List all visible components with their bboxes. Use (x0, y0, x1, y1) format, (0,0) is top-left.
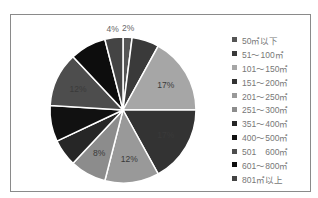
legend-label: 501 600㎡ (242, 145, 288, 157)
legend-swatch (232, 93, 237, 98)
chart-legend: 50㎡以下 51～100㎡ 101～150㎡ 151～200㎡ 201～250㎡… (232, 33, 312, 186)
legend-label: 151～200㎡ (242, 76, 288, 88)
data-label: 8% (93, 148, 106, 158)
legend-label: 50㎡以下 (242, 34, 278, 46)
legend-label: 601～800㎡ (242, 159, 288, 171)
legend-label: 101～150㎡ (242, 62, 288, 74)
legend-swatch (232, 65, 237, 70)
data-label: 12% (70, 84, 87, 94)
legend-item: 400～500㎡ (232, 130, 312, 144)
legend-swatch (232, 51, 237, 56)
legend-item: 201～250㎡ (232, 89, 312, 103)
legend-item: 251～300㎡ (232, 102, 312, 116)
legend-item: 501 600㎡ (232, 144, 312, 158)
legend-item: 601～800㎡ (232, 158, 312, 172)
legend-label: 351～400㎡ (242, 117, 288, 129)
legend-item: 801㎡以上 (232, 172, 312, 186)
legend-item: 351～400㎡ (232, 116, 312, 130)
legend-swatch (232, 149, 237, 154)
legend-item: 151～200㎡ (232, 75, 312, 89)
legend-swatch (232, 107, 237, 112)
data-label: 4% (107, 24, 120, 34)
legend-swatch (232, 37, 237, 42)
data-label: 17% (157, 130, 174, 140)
legend-item: 50㎡以下 (232, 33, 312, 47)
legend-label: 400～500㎡ (242, 131, 288, 143)
legend-item: 101～150㎡ (232, 61, 312, 75)
legend-label: 251～300㎡ (242, 103, 288, 115)
data-label: 2% (122, 23, 135, 33)
legend-label: 801㎡以上 (242, 173, 283, 185)
legend-label: 201～250㎡ (242, 90, 288, 102)
data-label: 12% (121, 154, 138, 164)
data-label: 6% (132, 58, 145, 68)
data-label: 17% (157, 80, 174, 90)
legend-swatch (232, 121, 237, 126)
legend-item: 51～100㎡ (232, 47, 312, 61)
legend-label: 51～100㎡ (242, 48, 284, 60)
legend-swatch (232, 135, 237, 140)
legend-swatch (232, 176, 237, 181)
legend-swatch (232, 79, 237, 84)
legend-swatch (232, 162, 237, 167)
